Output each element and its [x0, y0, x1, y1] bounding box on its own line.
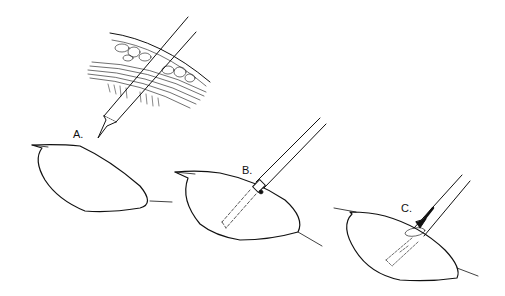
instrument-a — [98, 17, 196, 138]
illustration-drawing — [0, 0, 505, 296]
tissue-cross-section — [88, 33, 210, 108]
panel-label-b: B. — [242, 164, 252, 176]
arrow-icon — [416, 208, 433, 228]
surgical-illustration: A. B. C. — [0, 0, 505, 296]
panel-label-c: C. — [401, 202, 412, 214]
lesion-a — [32, 145, 172, 212]
panel-label-a: A. — [73, 128, 83, 140]
lesion-b — [175, 171, 322, 246]
instrument-c — [404, 175, 470, 238]
lesion-c — [334, 208, 478, 281]
instrument-b — [253, 118, 326, 194]
